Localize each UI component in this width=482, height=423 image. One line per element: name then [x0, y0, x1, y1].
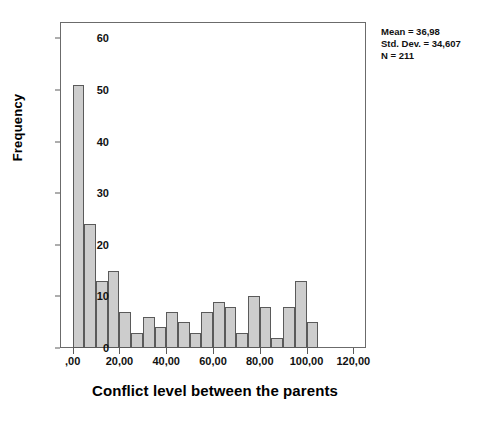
- y-axis-tick-mark: [55, 38, 60, 39]
- y-axis-tick-mark: [55, 193, 60, 194]
- x-axis-tick-mark: [119, 348, 120, 354]
- histogram-bar: [201, 312, 213, 348]
- histogram-bar: [271, 338, 283, 348]
- histogram-bar: [225, 307, 237, 348]
- stat-n: N = 211: [381, 50, 461, 62]
- statistics-annotation: Mean = 36,98 Std. Dev. = 34,607 N = 211: [381, 26, 461, 62]
- histogram-bar: [248, 296, 260, 348]
- histogram-bar: [236, 333, 248, 348]
- y-axis-tick-mark: [55, 244, 60, 245]
- histogram-bar: [295, 281, 307, 348]
- histogram-bar: [283, 307, 295, 348]
- histogram-bar: [178, 322, 190, 348]
- x-axis-tick-mark: [213, 348, 214, 354]
- histogram-bar: [213, 302, 225, 348]
- x-axis-tick-mark: [166, 348, 167, 354]
- histogram-bar: [108, 271, 120, 348]
- y-axis-tick-mark: [55, 296, 60, 297]
- histogram-bar: [143, 317, 155, 348]
- x-axis-title: Conflict level between the parents: [40, 382, 390, 399]
- stat-std-dev: Std. Dev. = 34,607: [381, 38, 461, 50]
- y-axis-title: Frequency: [10, 58, 25, 198]
- histogram-bar: [307, 322, 319, 348]
- x-axis-tick-label: 120,00: [318, 355, 388, 367]
- x-axis-tick-mark: [260, 348, 261, 354]
- histogram-figure: 0102030405060 ,0020,0040,0060,0080,00100…: [0, 0, 482, 423]
- x-axis-tick-mark: [73, 348, 74, 354]
- x-axis-tick-mark: [353, 348, 354, 354]
- histogram-bar: [155, 327, 167, 348]
- x-axis-tick-mark: [307, 348, 308, 354]
- histogram-bar: [131, 333, 143, 348]
- y-axis-tick-mark: [55, 90, 60, 91]
- histogram-bar: [260, 307, 272, 348]
- y-axis-tick-mark: [55, 141, 60, 142]
- histogram-bar: [190, 333, 202, 348]
- histogram-bar: [119, 312, 131, 348]
- stat-mean: Mean = 36,98: [381, 26, 461, 38]
- y-axis-tick-mark: [55, 348, 60, 349]
- histogram-bar: [166, 312, 178, 348]
- histogram-bar: [73, 85, 85, 348]
